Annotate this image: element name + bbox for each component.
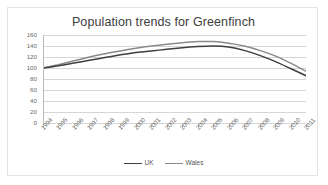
x-axis-tick-labels: 1994199519961997199819992000200120022003… [43,127,306,161]
y-axis-tick-labels: 160140120100806040200 [8,35,40,123]
y-axis-tick-label: 120 [27,54,37,60]
y-axis-tick-label: 140 [27,43,37,49]
series-line-wales [43,42,306,72]
chart-title: Population trends for Greenfinch [8,15,319,29]
y-axis-line [43,35,44,124]
y-axis-tick-label: 100 [27,65,37,71]
y-axis-tick-label: 0 [34,120,37,126]
y-axis-tick-label: 160 [27,32,37,38]
legend-line-swatch [124,163,142,164]
series-lines [43,35,306,123]
chart-container: Population trends for Greenfinch 1601401… [7,7,318,176]
plot-area [43,35,306,123]
y-axis-tick-label: 40 [30,98,37,104]
legend-entry-wales[interactable]: Wales [165,160,204,167]
y-axis-tick-label: 20 [30,109,37,115]
chart-legend: UKWales [8,160,319,167]
legend-label: Wales [186,160,204,167]
y-axis-tick-label: 60 [30,87,37,93]
legend-line-swatch [165,163,183,164]
series-line-uk [43,46,306,76]
y-axis-tick-label: 80 [30,76,37,82]
legend-entry-uk[interactable]: UK [124,160,154,167]
legend-label: UK [145,160,154,167]
